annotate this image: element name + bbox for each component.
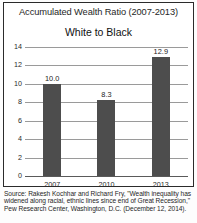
chart-figure: Accumulated Wealth Ratio (2007-2013) Whi… bbox=[0, 0, 197, 223]
source-line-2: widened along racial, ethnic lines since… bbox=[4, 197, 194, 204]
x-axis-tick-label: 2010 bbox=[98, 181, 114, 189]
y-axis-tick-label: 2 bbox=[18, 154, 22, 162]
plot-area: 02468101214 10.020078.3201012.92013 bbox=[25, 47, 188, 176]
gridline bbox=[25, 176, 188, 177]
bar bbox=[97, 100, 115, 176]
bar-value-label: 8.3 bbox=[101, 91, 111, 99]
x-axis-tick-label: 2007 bbox=[44, 181, 60, 189]
bar bbox=[43, 84, 61, 176]
y-axis-tick-label: 4 bbox=[18, 135, 22, 143]
bar-group: 8.32010 bbox=[79, 47, 133, 176]
y-axis-tick-label: 10 bbox=[14, 80, 22, 88]
bar-value-label: 10.0 bbox=[45, 75, 59, 83]
chart-frame: Accumulated Wealth Ratio (2007-2013) Whi… bbox=[3, 2, 194, 187]
chart-title: Accumulated Wealth Ratio (2007-2013) bbox=[4, 7, 193, 18]
y-axis-tick-label: 12 bbox=[14, 61, 22, 69]
source-line-1: Source: Rakesh Kochhar and Richard Fry, … bbox=[4, 190, 194, 197]
x-axis-tick-label: 2013 bbox=[153, 181, 169, 189]
bar-group: 10.02007 bbox=[25, 47, 79, 176]
source-line-3: Pew Research Center, Washington, D.C. (D… bbox=[4, 205, 194, 212]
source-note: Source: Rakesh Kochhar and Richard Fry, … bbox=[4, 190, 194, 212]
y-axis-tick-label: 0 bbox=[18, 172, 22, 180]
chart-subtitle: White to Black bbox=[4, 26, 193, 38]
y-axis-tick-label: 6 bbox=[18, 117, 22, 125]
y-axis-tick-label: 14 bbox=[14, 43, 22, 51]
bar-group: 12.92013 bbox=[134, 47, 188, 176]
bar bbox=[152, 57, 170, 176]
bar-series: 10.020078.3201012.92013 bbox=[25, 47, 188, 176]
y-axis-tick-label: 8 bbox=[18, 98, 22, 106]
bar-value-label: 12.9 bbox=[154, 48, 168, 56]
